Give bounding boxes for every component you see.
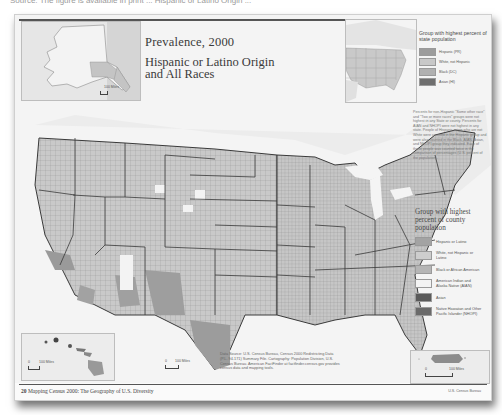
county-legend: Group with highest percent of county pop… [415, 208, 491, 319]
county-legend-item: Asian [415, 293, 491, 302]
county-legend-item: American Indian and Alaska Native (AIAN) [415, 279, 491, 288]
alaska-scale: 100 Miles [100, 85, 120, 95]
state-map [346, 20, 416, 102]
swatch-black [415, 265, 432, 274]
swatch-black-dc [419, 68, 436, 76]
methodology-note: Percents for non-Hispanic "Some other ra… [413, 110, 488, 161]
swatch-white-not-hispanic [419, 58, 436, 66]
map-title: Prevalence, 2000 [145, 35, 345, 50]
publisher: U.S. Census Bureau [448, 389, 481, 393]
county-legend-heading: Group with highest percent of county pop… [415, 208, 491, 232]
map-subtitle-line2: and All Races [145, 68, 345, 80]
state-legend-item: White, not Hispanic [419, 58, 491, 66]
book-title: Mapping Census 2000: The Geography of U.… [28, 388, 154, 394]
swatch-asian [415, 293, 432, 302]
state-legend-item: Hispanic (PR) [419, 48, 491, 56]
state-legend-item: Asian (HI) [419, 78, 491, 86]
top-caption: Source: The figure is available in print… [10, 0, 251, 5]
title-block: Prevalence, 2000 Hispanic or Latino Orig… [145, 35, 345, 80]
state-legend: Group with highest percent of state popu… [419, 30, 491, 88]
map-page: 100 Miles Prevalence, 2000 Hispanic or L… [14, 14, 492, 401]
hawaii-scale: 0 100 Miles [28, 360, 54, 372]
conus-scale: 0 100 Miles [165, 359, 195, 371]
alaska-inset: 100 Miles [21, 21, 141, 101]
page-number: 20 [21, 388, 27, 394]
swatch-hispanic-or-latino [415, 237, 432, 246]
county-legend-item: Native Hawaiian and Other Pacific Island… [415, 307, 491, 316]
state-inset [345, 19, 417, 103]
state-legend-item: Black (DC) [419, 68, 491, 76]
hawaii-map [22, 334, 114, 380]
swatch-aian [415, 279, 432, 288]
swatch-white-not-hispanic [415, 251, 432, 260]
swatch-nhopi [415, 307, 432, 316]
puerto-rico-inset: 0 100 Miles [410, 350, 490, 384]
swatch-asian-hi [419, 78, 436, 86]
puerto-rico-scale: 0 100 Miles [425, 367, 475, 379]
state-legend-heading: Group with highest percent of state popu… [419, 30, 491, 43]
footer-rule [19, 384, 487, 385]
footer-citation: 20 Mapping Census 2000: The Geography of… [21, 388, 154, 394]
data-source-note: Data Source: U.S. Census Bureau, Census … [220, 352, 340, 371]
alaska-map [22, 22, 140, 100]
county-legend-item: White, not Hispanic or Latino [415, 251, 491, 260]
map-area: 100 Miles Prevalence, 2000 Hispanic or L… [15, 15, 491, 383]
county-legend-item: Black or African American [415, 265, 491, 274]
swatch-hispanic-pr [419, 48, 436, 56]
county-legend-item: Hispanic or Latino [415, 237, 491, 246]
hawaii-inset: 0 100 Miles [21, 333, 115, 381]
